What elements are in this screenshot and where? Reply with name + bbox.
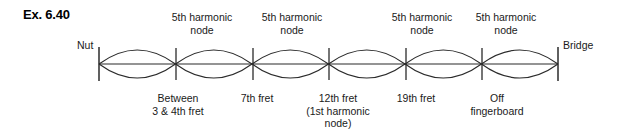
fret-position-label: Off fingerboard (417, 92, 577, 117)
wave-loop-lower-arc (176, 64, 253, 78)
wave-loop-lower-arc (99, 64, 176, 78)
figure-container: Ex. 6.40 5th harmonic node5th harmonic n… (0, 0, 625, 137)
wave-loop-upper-arc (482, 50, 559, 64)
wave-loop-upper-arc (176, 50, 253, 64)
bridge-label: Bridge (563, 39, 593, 51)
wave-loop-lower-arc (329, 64, 406, 78)
nut-label: Nut (77, 39, 93, 51)
wave-loop-lower-arc (405, 64, 482, 78)
wave-loop-upper-arc (329, 50, 406, 64)
wave-loop-lower-arc (482, 64, 559, 78)
wave-loop-lower-arc (252, 64, 329, 78)
wave-loop-upper-arc (405, 50, 482, 64)
harmonic-node-label: 5th harmonic node (426, 11, 586, 36)
wave-loop-upper-arc (99, 50, 176, 64)
wave-loop-upper-arc (252, 50, 329, 64)
